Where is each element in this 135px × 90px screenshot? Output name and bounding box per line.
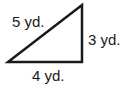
horizontal-leg-label: 4 yd. — [32, 68, 65, 83]
vertical-leg-label: 3 yd. — [88, 32, 121, 47]
hypotenuse-label: 5 yd. — [12, 14, 45, 29]
